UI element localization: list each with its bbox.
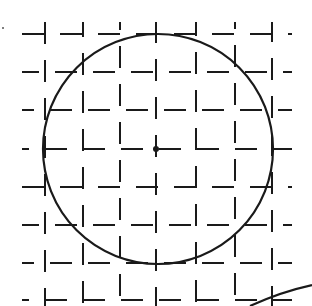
center-point	[153, 146, 159, 152]
stray-dot	[2, 27, 4, 29]
circle-grid-diagram	[0, 0, 312, 306]
corner-curve-stroke	[250, 285, 312, 306]
